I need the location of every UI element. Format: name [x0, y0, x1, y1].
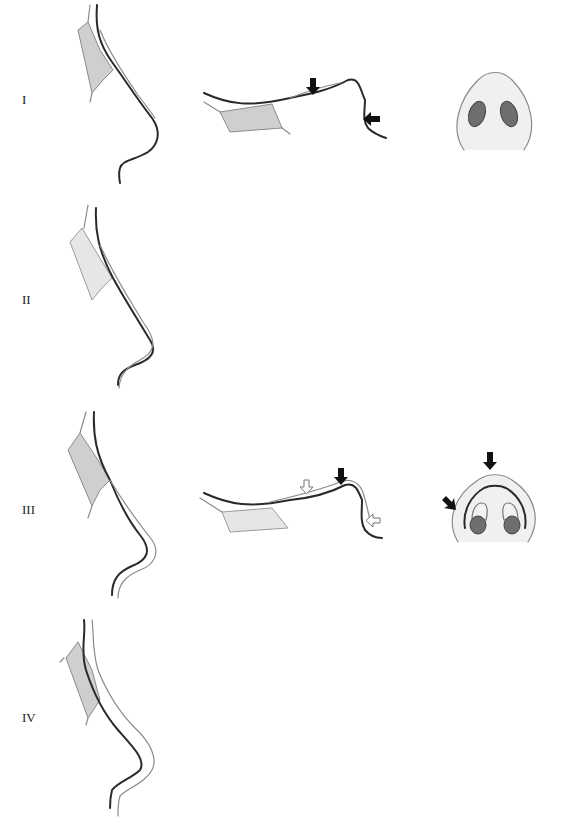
grade-row-3: III: [0, 400, 562, 610]
lateral-dorsum-view: [190, 60, 390, 160]
grade-row-4: IV: [0, 610, 562, 820]
profile-view: [0, 0, 200, 200]
grade-row-1: I: [0, 0, 562, 200]
profile-view: [0, 200, 200, 400]
profile-view: [0, 610, 200, 820]
grade-row-2: II: [0, 200, 562, 400]
basal-view: [420, 60, 550, 160]
profile-view: [0, 400, 200, 610]
